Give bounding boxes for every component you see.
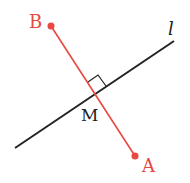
point-b-dot [48, 23, 55, 30]
label-m: M [81, 105, 98, 125]
label-l: l [168, 18, 174, 39]
label-b: B [29, 11, 42, 32]
diagram-svg: B A M l [0, 0, 190, 183]
point-a-dot [132, 153, 139, 160]
right-angle-marker [88, 75, 106, 86]
label-a: A [141, 155, 156, 176]
diagram-canvas: B A M l [0, 0, 190, 183]
segment-ab [51, 26, 135, 156]
